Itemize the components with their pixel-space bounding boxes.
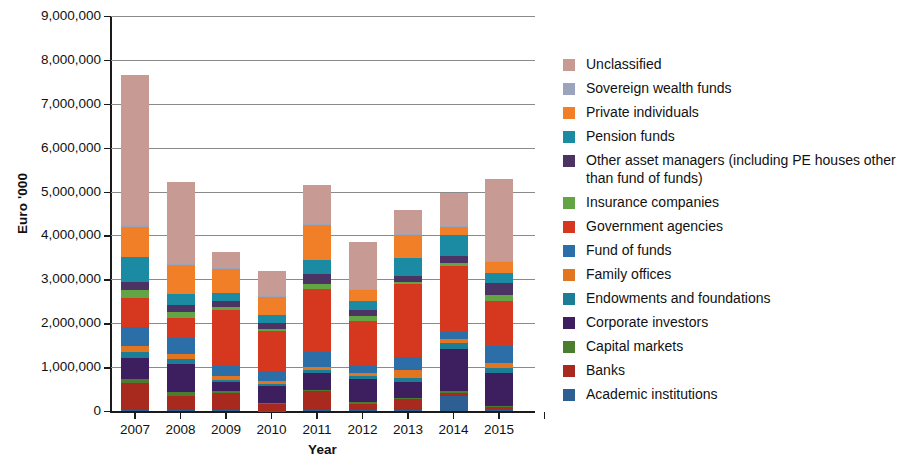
- bar-segment[interactable]: [303, 370, 331, 373]
- bar-segment[interactable]: [212, 410, 240, 411]
- bar-segment[interactable]: [485, 301, 513, 347]
- legend-item[interactable]: Government agencies: [563, 218, 906, 236]
- bar-segment[interactable]: [440, 343, 468, 349]
- bar-segment[interactable]: [485, 179, 513, 261]
- bar-segment[interactable]: [167, 305, 195, 312]
- bar-segment[interactable]: [121, 346, 149, 351]
- bar-segment[interactable]: [440, 256, 468, 263]
- bar-segment[interactable]: [485, 283, 513, 296]
- bar-segment[interactable]: [440, 235, 468, 256]
- bar-segment[interactable]: [485, 273, 513, 283]
- bar-segment[interactable]: [349, 404, 377, 411]
- bar-segment[interactable]: [394, 282, 422, 285]
- bar-segment[interactable]: [440, 227, 468, 235]
- bar-segment[interactable]: [212, 301, 240, 307]
- bar-segment[interactable]: [212, 310, 240, 366]
- bar-segment[interactable]: [258, 371, 286, 381]
- bar-segment[interactable]: [303, 410, 331, 411]
- bar-segment[interactable]: [349, 410, 377, 411]
- bar-segment[interactable]: [212, 382, 240, 391]
- bar-segment[interactable]: [485, 261, 513, 262]
- bar-segment[interactable]: [485, 410, 513, 411]
- bar-segment[interactable]: [167, 359, 195, 364]
- bar-segment[interactable]: [167, 182, 195, 264]
- bar-stack[interactable]: [394, 210, 422, 411]
- bar-segment[interactable]: [485, 406, 513, 407]
- bar-segment[interactable]: [440, 226, 468, 227]
- bar-stack[interactable]: [212, 253, 240, 411]
- legend-item[interactable]: Capital markets: [563, 338, 906, 356]
- legend-item[interactable]: Banks: [563, 362, 906, 380]
- bar-stack[interactable]: [303, 184, 331, 411]
- bar-segment[interactable]: [258, 329, 286, 332]
- bar-segment[interactable]: [349, 310, 377, 316]
- bar-segment[interactable]: [303, 225, 331, 259]
- bar-segment[interactable]: [485, 262, 513, 273]
- bar-segment[interactable]: [485, 407, 513, 410]
- bar-segment[interactable]: [167, 338, 195, 354]
- bar-segment[interactable]: [394, 210, 422, 233]
- bar-segment[interactable]: [212, 307, 240, 310]
- bar-segment[interactable]: [258, 323, 286, 328]
- legend-item[interactable]: Insurance companies: [563, 194, 906, 212]
- bar-segment[interactable]: [303, 391, 331, 409]
- bar-segment[interactable]: [167, 318, 195, 338]
- bar-segment[interactable]: [349, 366, 377, 373]
- bar-segment[interactable]: [349, 376, 377, 379]
- bar-segment[interactable]: [303, 352, 331, 367]
- bar-segment[interactable]: [394, 410, 422, 411]
- bar-segment[interactable]: [394, 284, 422, 357]
- bar-segment[interactable]: [121, 227, 149, 258]
- bar-segment[interactable]: [167, 364, 195, 392]
- legend-item[interactable]: Sovereign wealth funds: [563, 80, 906, 98]
- legend-item[interactable]: Fund of funds: [563, 242, 906, 260]
- legend-item[interactable]: Corporate investors: [563, 314, 906, 332]
- bar-segment[interactable]: [258, 331, 286, 371]
- bar-segment[interactable]: [349, 290, 377, 301]
- bar-segment[interactable]: [440, 339, 468, 343]
- bar-segment[interactable]: [303, 289, 331, 352]
- bar-segment[interactable]: [212, 376, 240, 380]
- bar-segment[interactable]: [485, 363, 513, 367]
- bar-segment[interactable]: [485, 295, 513, 300]
- bar-segment[interactable]: [394, 276, 422, 282]
- bar-segment[interactable]: [440, 263, 468, 266]
- bar-segment[interactable]: [121, 383, 149, 410]
- bar-stack[interactable]: [440, 193, 468, 411]
- bar-segment[interactable]: [121, 358, 149, 379]
- bar-segment[interactable]: [167, 265, 195, 294]
- legend-item[interactable]: Private individuals: [563, 104, 906, 122]
- bar-segment[interactable]: [394, 399, 422, 410]
- bar-segment[interactable]: [212, 380, 240, 383]
- bar-segment[interactable]: [167, 410, 195, 411]
- bar-segment[interactable]: [440, 393, 468, 397]
- bar-segment[interactable]: [258, 296, 286, 315]
- bar-segment[interactable]: [440, 391, 468, 393]
- bar-segment[interactable]: [167, 264, 195, 265]
- bar-segment[interactable]: [303, 185, 331, 225]
- bar-segment[interactable]: [394, 398, 422, 399]
- legend-item[interactable]: Other asset managers (including PE house…: [563, 152, 906, 187]
- bar-segment[interactable]: [212, 393, 240, 410]
- bar-segment[interactable]: [212, 269, 240, 294]
- bar-segment[interactable]: [394, 235, 422, 258]
- bar-segment[interactable]: [440, 193, 468, 226]
- bar-segment[interactable]: [167, 354, 195, 359]
- bar-segment[interactable]: [394, 258, 422, 276]
- bar-segment[interactable]: [349, 321, 377, 366]
- legend-item[interactable]: Family offices: [563, 266, 906, 284]
- bar-segment[interactable]: [258, 381, 286, 384]
- bar-segment[interactable]: [258, 404, 286, 410]
- bar-segment[interactable]: [349, 301, 377, 310]
- bar-segment[interactable]: [121, 282, 149, 290]
- bar-segment[interactable]: [394, 378, 422, 382]
- bar-segment[interactable]: [303, 390, 331, 392]
- bar-segment[interactable]: [485, 368, 513, 373]
- bar-segment[interactable]: [303, 284, 331, 288]
- bar-segment[interactable]: [303, 260, 331, 274]
- bar-segment[interactable]: [212, 391, 240, 393]
- legend-item[interactable]: Pension funds: [563, 128, 906, 146]
- bar-segment[interactable]: [485, 346, 513, 363]
- bar-segment[interactable]: [258, 296, 286, 297]
- bar-segment[interactable]: [121, 298, 149, 327]
